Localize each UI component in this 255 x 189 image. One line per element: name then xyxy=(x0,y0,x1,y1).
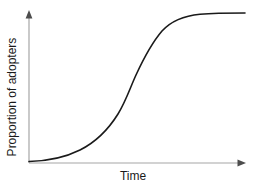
x-axis-label: Time xyxy=(120,169,147,183)
y-axis-label: Proportion of adopters xyxy=(5,38,19,157)
s-curve-chart: Time Proportion of adopters xyxy=(0,0,255,189)
chart-container: Time Proportion of adopters xyxy=(0,0,255,189)
